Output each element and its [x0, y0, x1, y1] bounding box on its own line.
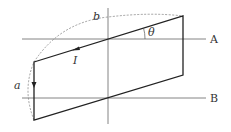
axis-a-label: A [209, 33, 219, 46]
side-a-label: a [14, 79, 21, 92]
angle-label: θ [148, 26, 155, 39]
current-down-arrow-icon [32, 82, 37, 88]
current-arrow-icon [72, 47, 80, 51]
axis-b-label: B [210, 92, 218, 105]
side-b-label: b [93, 10, 100, 23]
angle-arc [144, 28, 146, 39]
current-label: I [72, 54, 78, 67]
rotation-arc [28, 14, 183, 120]
current-loop [34, 16, 183, 120]
rotating-loop-diagram: A B θ I a b [0, 0, 231, 132]
